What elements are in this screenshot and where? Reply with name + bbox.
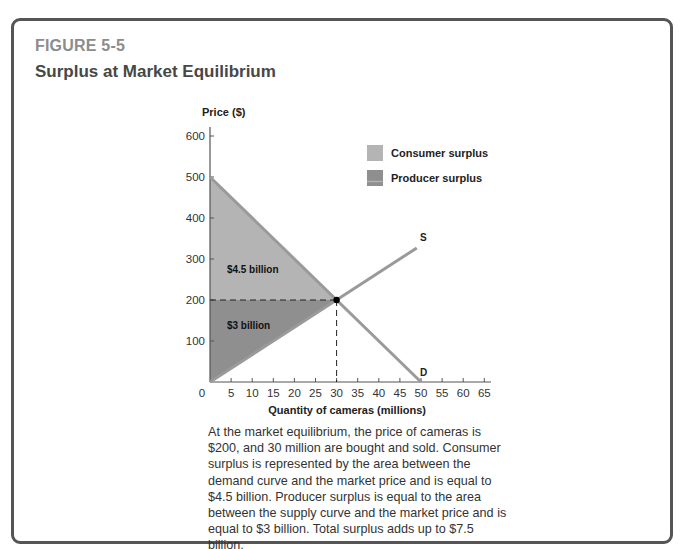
x-tick-label: 25 (309, 387, 322, 399)
x-ticks: 05101520253035404550556065 (199, 378, 491, 399)
x-tick-label: 45 (394, 387, 407, 399)
legend-swatch-producer-surplus (367, 170, 383, 186)
consumer-surplus-value-label: $4.5 billion (227, 264, 279, 275)
x-origin-label: 0 (199, 387, 205, 399)
x-axis-title: Quantity of cameras (millions) (268, 404, 426, 416)
y-tick-label: 500 (186, 171, 205, 183)
x-tick-label: 30 (330, 387, 343, 399)
legend: Consumer surplus Producer surplus (367, 145, 488, 186)
curve-labels: SD (420, 232, 427, 378)
curve-label-s: S (420, 232, 427, 243)
legend-swatch-consumer-surplus (367, 145, 383, 161)
x-tick-label: 35 (351, 387, 364, 399)
x-tick-label: 40 (372, 387, 385, 399)
y-tick-label: 300 (186, 253, 205, 265)
curve-label-d: D (420, 367, 427, 378)
x-tick-label: 10 (246, 387, 259, 399)
x-tick-label: 5 (228, 387, 234, 399)
legend-label-producer-surplus: Producer surplus (391, 172, 482, 184)
equilibrium-point (333, 297, 339, 303)
x-tick-label: 65 (478, 387, 491, 399)
x-tick-label: 55 (436, 387, 449, 399)
figure-caption: At the market equilibrium, the price of … (208, 424, 508, 549)
producer-surplus-value-label: $3 billion (227, 320, 270, 331)
x-tick-label: 15 (267, 387, 280, 399)
y-tick-label: 200 (186, 294, 205, 306)
x-tick-label: 20 (288, 387, 301, 399)
x-tick-label: 50 (415, 387, 428, 399)
y-axis-title: Price ($) (202, 106, 246, 118)
y-tick-label: 400 (186, 212, 205, 224)
legend-label-consumer-surplus: Consumer surplus (391, 147, 488, 159)
x-tick-label: 60 (457, 387, 470, 399)
y-tick-label: 600 (186, 130, 205, 142)
y-tick-label: 100 (186, 335, 205, 347)
